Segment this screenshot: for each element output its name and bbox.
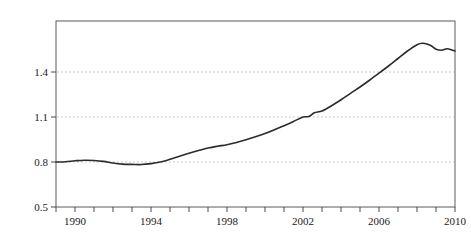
x-tick-label-2006: 2006 xyxy=(368,215,391,227)
x-tick-label-1990: 1990 xyxy=(64,215,87,227)
x-tick-label-2002: 2002 xyxy=(292,215,314,227)
x-tick-label-1994: 1994 xyxy=(140,215,163,227)
x-tick-label-1998: 1998 xyxy=(216,215,239,227)
y-tick-label-0.5: 0.5 xyxy=(34,201,48,213)
chart-container: 比 重 199019941998200220062010 0.50.81.11.… xyxy=(0,0,471,244)
y-tick-label-0.8: 0.8 xyxy=(34,156,48,168)
y-tick-label-1.1: 1.1 xyxy=(34,111,48,123)
y-tick-label-1.4: 1.4 xyxy=(34,66,48,78)
line-chart-plot: 199019941998200220062010 0.50.81.11.4 xyxy=(0,0,471,244)
x-tick-label-2010: 2010 xyxy=(444,215,467,227)
